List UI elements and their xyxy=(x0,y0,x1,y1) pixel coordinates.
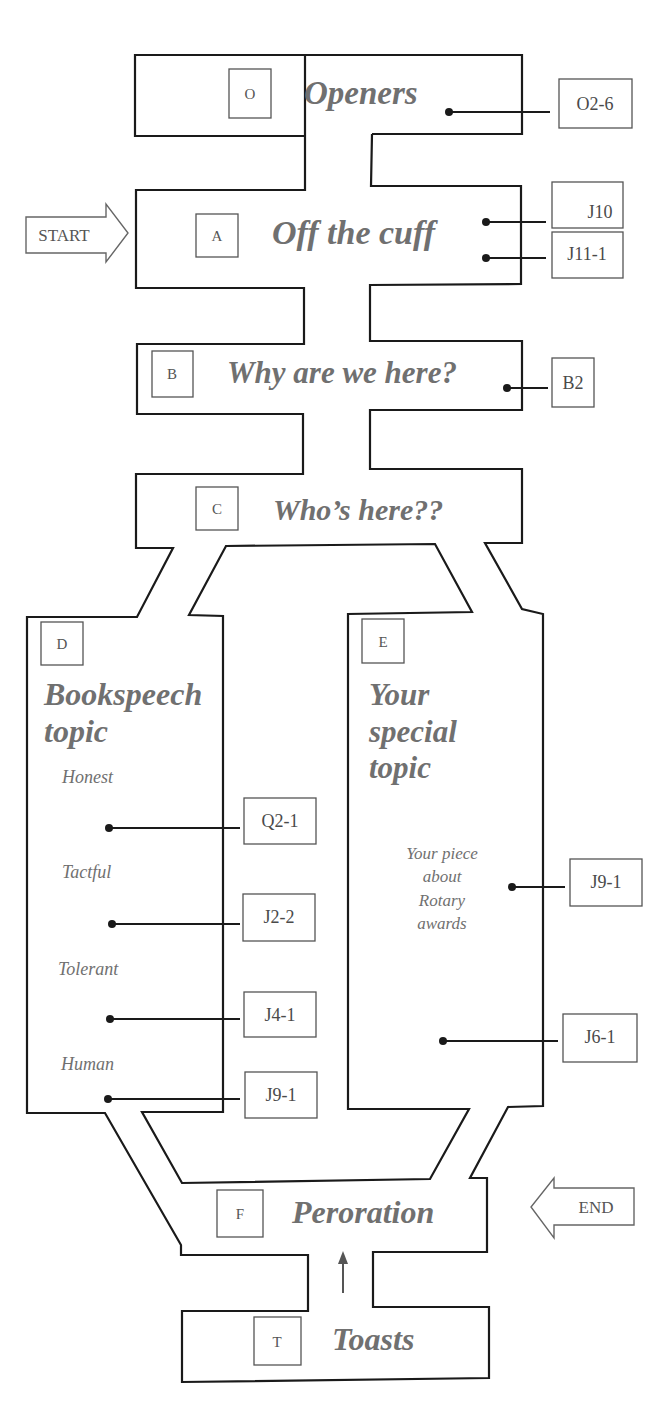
letter-a: A xyxy=(212,228,223,244)
section-off-the-cuff: A Off the cuff J10 J11-1 xyxy=(196,182,623,278)
ref-j2-2: J2-2 xyxy=(264,907,295,927)
connector-dot xyxy=(445,108,453,116)
letter-b: B xyxy=(167,366,177,382)
section-your-special-topic: E Your special topic Your piece about Ro… xyxy=(362,619,642,1062)
ref-b2: B2 xyxy=(562,373,583,393)
speech-flow-diagram: START END O Openers O2-6 A Off the cuff … xyxy=(0,0,664,1405)
connector-dot xyxy=(104,1095,112,1103)
section-openers: O Openers O2-6 xyxy=(229,69,632,128)
title-special: special xyxy=(368,714,457,749)
ref-j6-1: J6-1 xyxy=(585,1027,616,1047)
item-human: Human xyxy=(60,1054,114,1074)
letter-c: C xyxy=(212,501,222,517)
letter-e: E xyxy=(378,634,387,650)
title-your: Your xyxy=(369,677,430,712)
connector-dot xyxy=(105,824,113,832)
note-line-4: awards xyxy=(417,914,467,933)
letter-d: D xyxy=(57,636,68,652)
section-whos-here: C Who’s here?? xyxy=(196,487,443,530)
ref-j9-1-d: J9-1 xyxy=(266,1085,297,1105)
title-toasts: Toasts xyxy=(332,1321,414,1357)
connector-dot xyxy=(106,1015,114,1023)
ref-j10: J10 xyxy=(587,202,612,222)
start-arrow: START xyxy=(26,204,128,262)
note-line-3: Rotary xyxy=(418,891,466,910)
item-tactful: Tactful xyxy=(62,862,111,882)
ref-j4-1: J4-1 xyxy=(265,1005,296,1025)
title-peroration: Peroration xyxy=(291,1194,434,1230)
title-off-the-cuff: Off the cuff xyxy=(272,214,439,251)
ref-j11-1: J11-1 xyxy=(567,244,606,264)
letter-f: F xyxy=(236,1206,244,1222)
ref-q2-1: Q2-1 xyxy=(262,811,299,831)
connector-dot xyxy=(508,883,516,891)
letter-o: O xyxy=(245,86,256,102)
note-line-2: about xyxy=(423,867,463,886)
item-honest: Honest xyxy=(61,767,114,787)
up-arrow-icon xyxy=(338,1251,348,1293)
ref-j9-1-e: J9-1 xyxy=(591,872,622,892)
title-why-are-we-here: Why are we here? xyxy=(227,355,457,390)
note-line-1: Your piece xyxy=(406,844,478,863)
connector-dot xyxy=(108,920,116,928)
title-bookspeech: Bookspeech xyxy=(43,676,202,712)
connector-dot xyxy=(482,218,490,226)
start-label: START xyxy=(38,226,90,245)
letter-t: T xyxy=(272,1334,281,1350)
ref-o2-6: O2-6 xyxy=(577,94,614,114)
section-toasts: T Toasts xyxy=(254,1317,414,1365)
section-why-are-we-here: B Why are we here? B2 xyxy=(152,351,594,407)
connector-dot xyxy=(439,1037,447,1045)
title-whos-here: Who’s here?? xyxy=(273,493,443,526)
end-label: END xyxy=(579,1198,614,1217)
connector-dot xyxy=(482,254,490,262)
end-arrow: END xyxy=(531,1178,634,1238)
section-bookspeech-topic: D Bookspeech topic Honest Q2-1 Tactful J… xyxy=(41,622,317,1118)
connector-dot xyxy=(503,384,511,392)
section-peroration: F Peroration xyxy=(217,1190,434,1237)
item-tolerant: Tolerant xyxy=(58,959,119,979)
title-topic: topic xyxy=(44,713,108,749)
title-topic-e: topic xyxy=(369,750,431,785)
title-openers: Openers xyxy=(304,75,418,111)
